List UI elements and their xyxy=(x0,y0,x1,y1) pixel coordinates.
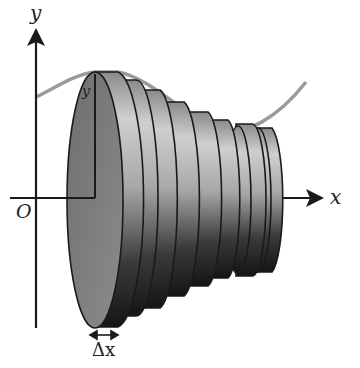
y-axis-label: y xyxy=(29,1,42,25)
delta-x-label: Δx xyxy=(92,339,115,360)
x-axis-label: x xyxy=(330,185,341,209)
disk-method-figure: y y x O Δx xyxy=(0,0,360,368)
delta-x-arrow-icon xyxy=(90,331,118,339)
origin-label: O xyxy=(16,200,32,222)
disk-stack xyxy=(67,72,283,328)
radius-label: y xyxy=(81,83,91,99)
